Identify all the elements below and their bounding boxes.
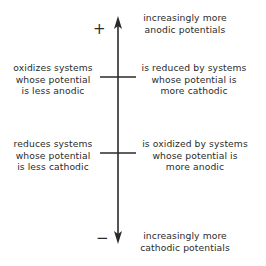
negative-sign: − — [96, 231, 109, 246]
positive-sign: + — [93, 22, 106, 37]
upper-left-label: oxidizes systems whose potential is less… — [8, 62, 98, 97]
upper-right-label: is reduced by systems whose potential is… — [138, 62, 250, 97]
potential-axis-diagram — [0, 0, 266, 266]
lower-left-label: reduces systems whose potential is less … — [8, 138, 98, 173]
top-label-anodic: increasingly more anodic potentials — [138, 12, 232, 35]
bottom-label-cathodic: increasingly more cathodic potentials — [136, 230, 234, 253]
lower-right-label: is oxidized by systems whose potential i… — [138, 138, 252, 173]
